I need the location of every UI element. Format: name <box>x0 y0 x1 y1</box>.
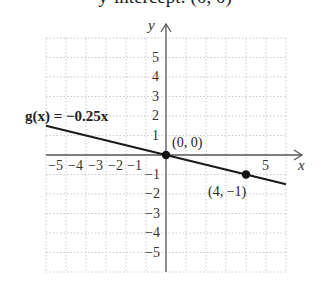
y-tick-label: 2 <box>152 108 159 123</box>
y-tick-label: −1 <box>145 167 160 182</box>
point-origin <box>162 151 170 159</box>
y-tick-label: 5 <box>152 50 159 65</box>
y-tick-label: 4 <box>152 69 159 84</box>
y-tick-label: 1 <box>152 128 159 143</box>
x-axis-label: x <box>297 157 305 173</box>
y-axis-label: y <box>146 17 155 33</box>
equation-label: g(x) = −0.25x <box>25 108 109 125</box>
y-tick-label: −4 <box>145 225 160 240</box>
y-tick-label: −5 <box>145 245 160 260</box>
second-point-label: (4, −1) <box>208 184 247 200</box>
x-tick-label: −4 <box>68 158 83 173</box>
x-tick-label: −2 <box>108 158 123 173</box>
y-tick-label: −3 <box>145 206 160 221</box>
y-tick-label: −2 <box>145 186 160 201</box>
point-four-neg-one <box>242 170 250 178</box>
origin-point-label: (0, 0) <box>172 135 203 151</box>
x-tick-label: −3 <box>88 158 103 173</box>
x-tick-label: 5 <box>262 158 269 173</box>
coordinate-plane: x y −5 −4 −3 −2 −1 5 5 4 3 2 1 −1 −2 −3 … <box>0 0 330 287</box>
y-tick-label: 3 <box>152 89 159 104</box>
x-tick-label: −5 <box>48 158 63 173</box>
x-tick-label: −1 <box>127 158 142 173</box>
